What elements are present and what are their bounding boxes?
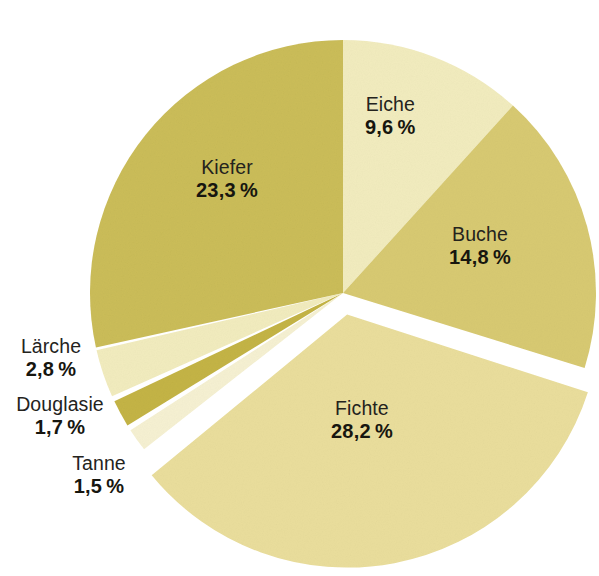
pie-slice-fichte [152, 315, 588, 568]
pie-chart-canvas [0, 0, 599, 576]
pie-chart: Eiche 9,6 % Buche 14,8 % Fichte 28,2 % K… [0, 0, 599, 576]
pie-slice-kiefer [90, 40, 343, 347]
pie-slice-group [90, 40, 596, 568]
